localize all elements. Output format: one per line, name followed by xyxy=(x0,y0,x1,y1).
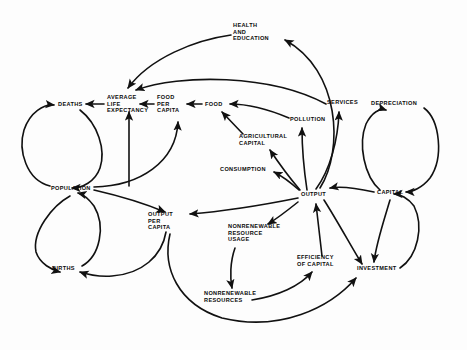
node-label-line: BIRTHS xyxy=(52,265,75,271)
node-nonrenewable_resource_usage[interactable]: NONRENEWABLERESOURCEUSAGE xyxy=(228,223,280,242)
node-label-line: NONRENEWABLE xyxy=(204,290,256,296)
node-label-line: AND xyxy=(233,29,246,35)
edge-depreciation-to-capital xyxy=(406,108,439,192)
edge-output-to-services xyxy=(316,112,339,189)
node-label-line: CAPITA xyxy=(148,224,171,230)
edge-efficiency-of-capital-to-output xyxy=(316,204,322,256)
node-label-line: INVESTMENT xyxy=(357,265,397,271)
node-label-line: CONSUMPTION xyxy=(220,166,266,172)
edge-investment-to-capital xyxy=(394,194,419,268)
edge-output-per-capita-to-nonrenewable-resources-loop xyxy=(168,234,356,322)
node-label-line: USAGE xyxy=(228,236,250,242)
edge-output-to-agricultural-capital xyxy=(270,150,300,190)
node-population[interactable]: POPULATION xyxy=(51,185,91,191)
node-label-line: EXPECTANCY xyxy=(107,107,148,113)
node-label-line: FOOD xyxy=(205,101,223,107)
node-label-line: EDUCATION xyxy=(233,35,269,41)
edge-output-to-health-and-education xyxy=(285,40,334,188)
node-label-line: FOOD xyxy=(157,94,175,100)
node-services[interactable]: SERVICES xyxy=(327,99,358,105)
node-label-line: AVERAGE xyxy=(107,94,137,100)
edge-capital-to-output xyxy=(330,187,374,192)
edge-pollution-to-food xyxy=(230,104,289,118)
node-depreciation[interactable]: DEPRECIATION xyxy=(371,100,417,106)
node-food_per_capita[interactable]: FOODPERCAPITA xyxy=(157,94,180,113)
edge-agricultural-capital-to-food xyxy=(222,112,243,134)
node-label-line: AGRICULTURAL xyxy=(239,133,287,139)
node-label-line: HEALTH xyxy=(233,22,257,28)
node-label-line: NONRENEWABLE xyxy=(228,223,280,229)
node-label-line: CAPITAL xyxy=(239,140,266,146)
edge-deaths-to-population xyxy=(72,110,102,188)
causal-loop-diagram: HEALTHANDEDUCATIONDEATHSAVERAGELIFEEXPEC… xyxy=(0,0,467,350)
node-births[interactable]: BIRTHS xyxy=(52,265,75,271)
diagram-canvas: HEALTHANDEDUCATIONDEATHSAVERAGELIFEEXPEC… xyxy=(0,0,467,350)
edge-output-to-nonrenewable-resource-usage xyxy=(268,202,298,224)
node-pollution[interactable]: POLLUTION xyxy=(290,116,325,122)
node-label-line: LIFE xyxy=(107,101,121,107)
node-nonrenewable_resources[interactable]: NONRENEWABLERESOURCES xyxy=(204,290,256,303)
node-label-line: EFFICIENCY xyxy=(297,254,334,260)
edge-capital-to-investment xyxy=(374,200,390,262)
node-output_per_capita[interactable]: OUTPUTPERCAPITA xyxy=(148,211,173,230)
node-efficiency_of_capital[interactable]: EFFICIENCYOF CAPITAL xyxy=(297,254,334,267)
nodes-layer: HEALTHANDEDUCATIONDEATHSAVERAGELIFEEXPEC… xyxy=(51,22,417,303)
edge-nonrenewable-resources-to-efficiency-of-capital xyxy=(252,272,312,300)
edge-output-to-output-per-capita xyxy=(190,198,298,214)
edge-output-to-consumption xyxy=(274,172,299,190)
node-agricultural_capital[interactable]: AGRICULTURALCAPITAL xyxy=(239,133,287,146)
edge-population-to-output-per-capita xyxy=(94,190,165,212)
node-output[interactable]: OUTPUT xyxy=(301,191,326,197)
edge-nonrenewable-resource-usage-to-nonrenewable-resources xyxy=(231,248,235,288)
node-health_and_education[interactable]: HEALTHANDEDUCATION xyxy=(233,22,269,41)
node-deaths[interactable]: DEATHS xyxy=(58,101,83,107)
node-investment[interactable]: INVESTMENT xyxy=(357,265,397,271)
node-label-line: SERVICES xyxy=(327,99,358,105)
edge-capital-to-depreciation xyxy=(362,110,386,190)
node-label-line: POPULATION xyxy=(51,185,91,191)
node-label-line: RESOURCE xyxy=(228,230,263,236)
node-label-line: PER xyxy=(148,218,161,224)
node-label-line: OUTPUT xyxy=(148,211,173,217)
edges-layer xyxy=(22,35,438,322)
node-label-line: DEATHS xyxy=(58,101,83,107)
node-label-line: PER xyxy=(157,101,170,107)
edge-population-to-food-per-capita xyxy=(94,122,178,187)
node-label-line: OUTPUT xyxy=(301,191,326,197)
node-label-line: DEPRECIATION xyxy=(371,100,417,106)
edge-population-to-births xyxy=(35,196,70,272)
node-capital[interactable]: CAPITAL xyxy=(377,189,404,195)
node-label-line: OF CAPITAL xyxy=(297,261,334,267)
edge-output-to-pollution xyxy=(302,128,307,190)
edge-output-per-capita-to-births xyxy=(80,232,166,276)
node-label-line: POLLUTION xyxy=(290,116,325,122)
node-label-line: RESOURCES xyxy=(204,297,243,303)
node-food[interactable]: FOOD xyxy=(205,101,223,107)
edge-births-to-population xyxy=(78,193,100,266)
node-label-line: CAPITA xyxy=(157,107,180,113)
node-consumption[interactable]: CONSUMPTION xyxy=(220,166,266,172)
edge-population-to-deaths xyxy=(22,105,54,186)
node-label-line: CAPITAL xyxy=(377,189,404,195)
